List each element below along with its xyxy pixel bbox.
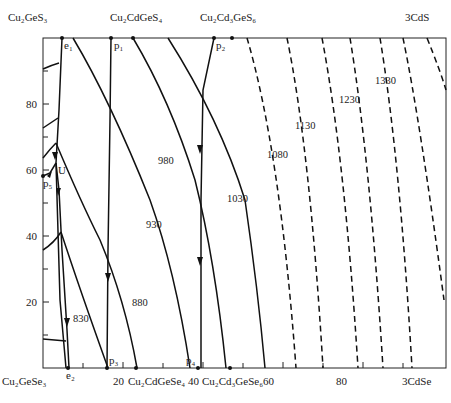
isotherm-830: 830 <box>73 313 89 324</box>
isotherm-980: 980 <box>158 155 174 166</box>
corner-top-right: 3CdS <box>405 11 429 23</box>
bottom-compound-1: Cu₂CdGeSe₄ <box>128 375 185 387</box>
label-U: U <box>58 164 66 176</box>
isotherm-1080: 1080 <box>267 149 288 160</box>
top-compound-1: Cu₂CdGeS₄ <box>110 11 162 23</box>
y-tick-80: 80 <box>26 98 38 110</box>
phase-diagram: Cu₂GeS₃ Cu₂CdGeS₄ Cu₂Cd₃GeS₆ 3CdS Cu₂GeS… <box>0 0 451 403</box>
top-compound-2: Cu₂Cd₃GeS₆ <box>200 11 256 23</box>
y-tick-20: 20 <box>26 296 38 308</box>
label-e2: e₂ <box>66 369 75 381</box>
y-tick-40: 40 <box>26 230 38 242</box>
x-tick-20: 20 <box>113 375 125 387</box>
corner-bottom-left: Cu₂GeSe₃ <box>2 375 46 387</box>
point-p3 <box>105 366 109 370</box>
corner-top-left: Cu₂GeS₃ <box>8 11 48 23</box>
x-tick-40: 40 <box>188 375 200 387</box>
point-p4 <box>196 366 200 370</box>
bottom-compound-2: Cu₂Cd₃GeSe₆ <box>202 375 263 387</box>
corner-bottom-right: 3CdSe <box>402 375 431 387</box>
x-tick-60: 60 <box>263 375 275 387</box>
isotherm-1130: 1130 <box>295 120 316 131</box>
x-tick-80: 80 <box>336 375 348 387</box>
label-p2: p₂ <box>216 39 226 51</box>
compound-markers <box>131 36 234 370</box>
label-e1: e₁ <box>64 39 73 51</box>
x-ticks <box>83 362 403 368</box>
label-p3: p₃ <box>109 354 119 366</box>
y-ticks <box>43 71 49 335</box>
label-p5: p₅ <box>43 177 53 189</box>
isotherm-880: 880 <box>132 297 148 308</box>
dashed-isotherms <box>247 38 446 368</box>
isotherm-1030: 1030 <box>227 193 248 204</box>
monovariant-curves <box>43 38 214 368</box>
point-p1 <box>109 36 113 40</box>
isotherm-1330: 1330 <box>375 75 396 86</box>
label-p1: p₁ <box>114 39 124 51</box>
isotherm-930: 930 <box>146 219 162 230</box>
isotherm-1230: 1230 <box>339 94 360 105</box>
y-tick-60: 60 <box>26 164 38 176</box>
label-p4: p₄ <box>186 354 196 366</box>
